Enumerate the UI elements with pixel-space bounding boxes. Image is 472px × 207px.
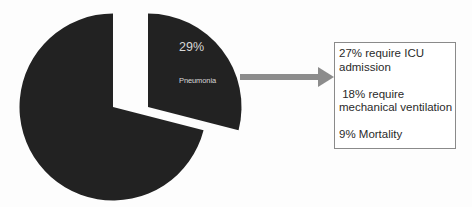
callout-line-ventilation: 18% require — [339, 88, 451, 102]
callout-line-icu: 27% require ICU — [339, 47, 451, 61]
callout-box: 27% require ICU admission 18% require me… — [334, 42, 456, 149]
callout-line-mortality: 9% Mortality — [339, 128, 451, 142]
callout-line-icu-cont: admission — [339, 61, 451, 75]
arrow-icon — [240, 67, 334, 87]
pie-slice-pneumonia — [148, 14, 242, 131]
callout-spacer-2 — [339, 115, 451, 129]
callout-line-ventilation-cont: mechanical ventilation — [339, 101, 451, 115]
callout-spacer — [339, 74, 451, 88]
